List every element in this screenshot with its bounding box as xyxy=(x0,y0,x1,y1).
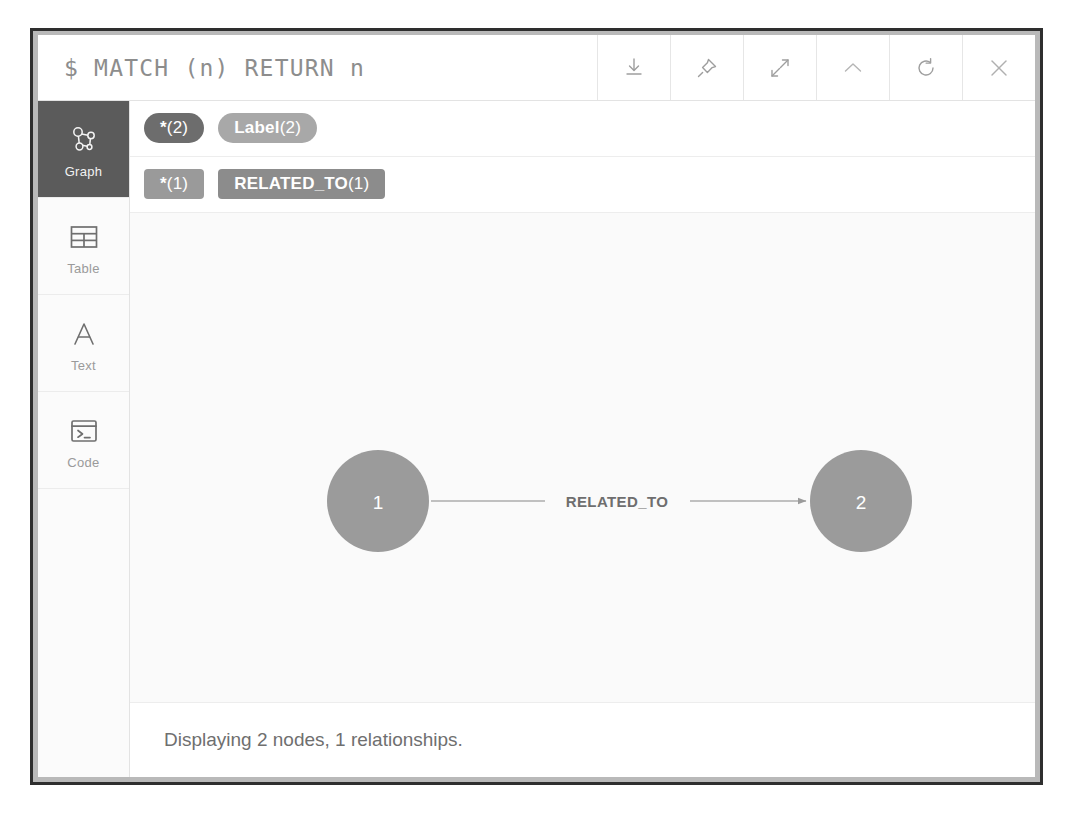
download-button[interactable] xyxy=(597,35,670,100)
legend-chip-label: RELATED_TO xyxy=(234,174,348,194)
status-bar: Displaying 2 nodes, 1 relationships. xyxy=(130,703,1035,777)
result-frame-header: $ MATCH (n) RETURN n xyxy=(38,35,1035,101)
node-label: 1 xyxy=(373,491,384,512)
legend-nodes-row: *(2) Label(2) xyxy=(130,101,1035,157)
graph-node-1[interactable]: 1 xyxy=(327,450,429,552)
refresh-icon xyxy=(913,55,939,81)
close-button[interactable] xyxy=(962,35,1035,100)
sidebar-item-code[interactable]: Code xyxy=(38,392,129,489)
query-display[interactable]: $ MATCH (n) RETURN n xyxy=(38,35,597,100)
node-label: 2 xyxy=(856,491,867,512)
relationship-label: RELATED_TO xyxy=(566,492,669,509)
legend-chip-label: * xyxy=(160,174,167,194)
sidebar-item-text[interactable]: Text xyxy=(38,295,129,392)
close-icon xyxy=(986,55,1012,81)
table-icon xyxy=(68,217,100,257)
neo4j-browser-frame: $ MATCH (n) RETURN n xyxy=(38,35,1035,777)
graph-view: *(2) Label(2) *(1) RELATED_TO(1) xyxy=(130,101,1035,777)
header-button-group xyxy=(597,35,1035,100)
sidebar-label-text: Text xyxy=(71,358,96,373)
legend-chip-rel-all[interactable]: *(1) xyxy=(144,169,204,199)
screenshot-root: $ MATCH (n) RETURN n xyxy=(0,0,1075,818)
legend-relationships-row: *(1) RELATED_TO(1) xyxy=(130,157,1035,213)
pin-icon xyxy=(694,55,720,81)
expand-icon xyxy=(767,55,793,81)
sidebar-item-table[interactable]: Table xyxy=(38,198,129,295)
collapse-button[interactable] xyxy=(816,35,889,100)
code-icon xyxy=(68,411,100,451)
legend-chip-count: (2) xyxy=(167,118,188,138)
sidebar-label-table: Table xyxy=(67,261,100,276)
pin-button[interactable] xyxy=(670,35,743,100)
expand-button[interactable] xyxy=(743,35,816,100)
refresh-button[interactable] xyxy=(889,35,962,100)
legend-chip-node-label[interactable]: Label(2) xyxy=(218,113,317,143)
legend-chip-rel-related-to[interactable]: RELATED_TO(1) xyxy=(218,169,385,199)
legend-chip-count: (1) xyxy=(167,174,188,194)
legend-chip-node-all[interactable]: *(2) xyxy=(144,113,204,143)
legend-chip-label: * xyxy=(160,118,167,138)
graph-svg: RELATED_TO 1 2 xyxy=(130,213,1035,703)
chevron-up-icon xyxy=(840,55,866,81)
download-icon xyxy=(621,55,647,81)
status-text: Displaying 2 nodes, 1 relationships. xyxy=(164,729,463,751)
result-body: Graph Table xyxy=(38,101,1035,777)
graph-node-2[interactable]: 2 xyxy=(810,450,912,552)
query-text: $ MATCH (n) RETURN n xyxy=(64,55,365,81)
text-icon xyxy=(68,314,100,354)
graph-canvas[interactable]: RELATED_TO 1 2 xyxy=(130,213,1035,703)
sidebar-item-graph[interactable]: Graph xyxy=(38,101,129,198)
sidebar-label-code: Code xyxy=(67,455,99,470)
legend-chip-label: Label xyxy=(234,118,279,138)
view-switch-sidebar: Graph Table xyxy=(38,101,130,777)
relationship-related-to[interactable]: RELATED_TO xyxy=(431,492,806,509)
legend-chip-count: (1) xyxy=(348,174,369,194)
sidebar-label-graph: Graph xyxy=(65,164,103,179)
legend-chip-count: (2) xyxy=(280,118,301,138)
graph-icon xyxy=(67,120,101,160)
